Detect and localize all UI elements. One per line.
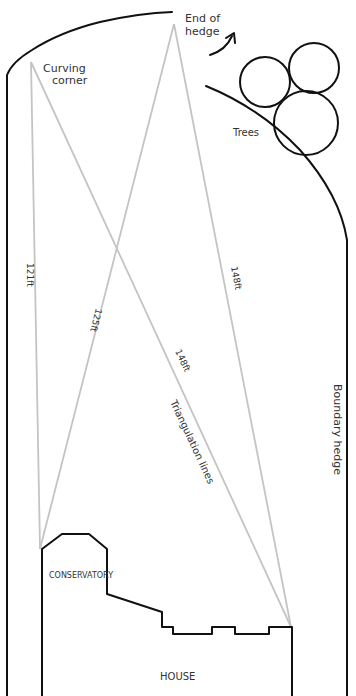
end-of-hedge-label: End of — [185, 12, 221, 25]
triangulation-line-148ft-right — [174, 24, 291, 627]
curving-corner-label-2: corner — [52, 74, 88, 87]
house-label: HOUSE — [160, 671, 195, 682]
measurement-125ft-label: 125ft — [88, 308, 104, 334]
measurement-148ft-right-label: 148ft — [229, 265, 243, 291]
right-boundary-hedge-line — [206, 86, 347, 696]
conservatory-label: CONSERVATORY — [49, 571, 113, 580]
triangulation-line-121ft — [31, 62, 40, 549]
end-of-hedge-label-2: hedge — [185, 25, 220, 38]
triangulation-line-148ft-diag — [31, 62, 291, 627]
arrow-icon — [210, 36, 232, 55]
boundary-hedge-label: Boundary hedge — [331, 384, 344, 475]
tree-circle-2 — [289, 43, 339, 93]
tree-circle-1 — [240, 57, 290, 107]
measurement-148ft-diag-label: 148ft — [173, 348, 192, 374]
garden-diagram: Curving corner End of hedge Trees 121ft … — [0, 0, 356, 696]
tree-circle-3 — [274, 91, 338, 155]
trees-label: Trees — [232, 127, 259, 138]
measurement-121ft-label: 121ft — [25, 263, 35, 287]
triangulation-line-125ft — [40, 24, 174, 549]
